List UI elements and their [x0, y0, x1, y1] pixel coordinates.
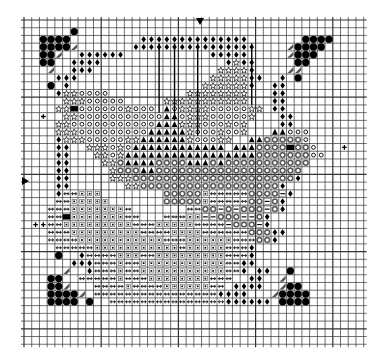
center-marker-left-icon [22, 177, 29, 185]
center-marker-top-icon [196, 18, 204, 25]
pattern-chart [0, 0, 386, 361]
grid-lines [21, 17, 367, 347]
